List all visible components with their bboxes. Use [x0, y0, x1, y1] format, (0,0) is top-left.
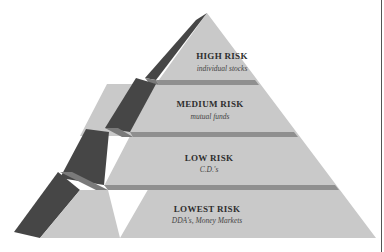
tier-3-subtitle: C.D.'s: [200, 165, 219, 174]
risk-pyramid-diagram: HIGH RISK individual stocks MEDIUM RISK …: [0, 0, 384, 252]
band-1: [156, 80, 259, 85]
tier-4-subtitle: DDA's, Money Markets: [171, 216, 243, 225]
band-3: [104, 185, 339, 190]
side-facet-3: [60, 129, 109, 185]
tier-1-subtitle: individual stocks: [197, 64, 248, 73]
tier-2-subtitle: mutual funds: [191, 112, 230, 121]
pyramid-graphic: HIGH RISK individual stocks MEDIUM RISK …: [0, 0, 384, 252]
right-border-line: [381, 0, 382, 252]
tier-4-title: LOWEST RISK: [174, 204, 240, 214]
tier-3-title: LOW RISK: [185, 153, 234, 163]
tier-2-title: MEDIUM RISK: [176, 99, 243, 109]
tier-1-title: HIGH RISK: [196, 51, 247, 61]
band-2: [130, 132, 298, 137]
